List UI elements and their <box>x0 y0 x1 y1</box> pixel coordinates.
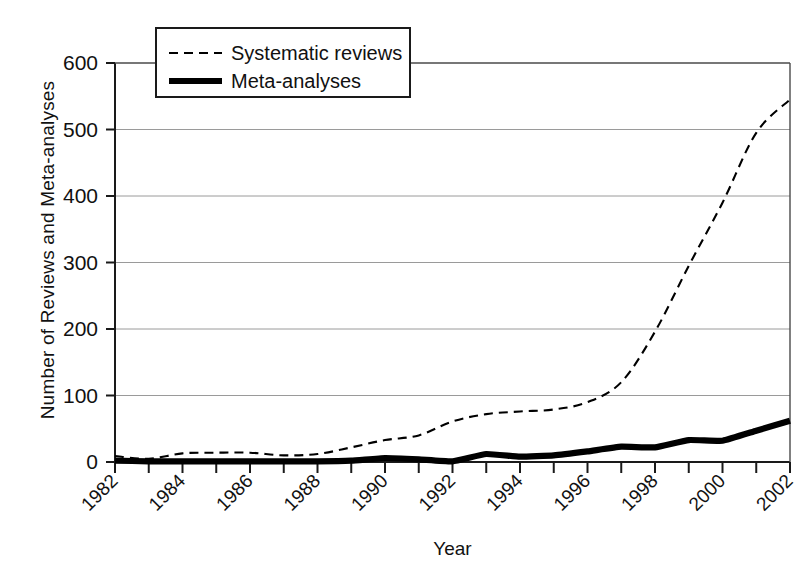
x-axis-tick-label: 1986 <box>212 470 257 515</box>
x-axis-tick-label: 1988 <box>280 470 325 515</box>
x-axis-tick-label: 1992 <box>415 470 460 515</box>
chart-figure: Number of Reviews and Meta-analyses Year… <box>0 0 811 578</box>
y-axis-tick-labels-group: 0100200300400500600 <box>63 51 98 473</box>
x-axis-tick-label: 1998 <box>617 470 662 515</box>
y-axis-tick-label: 500 <box>63 118 98 141</box>
legend-label-systematic-reviews: Systematic reviews <box>231 42 402 64</box>
y-axis-tick-label: 400 <box>63 184 98 207</box>
y-axis-tick-label: 0 <box>86 450 98 473</box>
y-axis-tick-label: 100 <box>63 384 98 407</box>
y-axis-ticks-group <box>106 63 115 462</box>
chart-plot-area: 0100200300400500600 19821984198619881990… <box>0 0 811 578</box>
x-axis-tick-label: 2002 <box>752 470 797 515</box>
x-axis-tick-label: 1996 <box>550 470 595 515</box>
y-axis-tick-label: 200 <box>63 317 98 340</box>
x-axis-tick-label: 1982 <box>77 470 122 515</box>
gridlines-group <box>115 130 790 396</box>
y-axis-tick-label: 300 <box>63 251 98 274</box>
y-axis-tick-label: 600 <box>63 51 98 74</box>
series-line-systematic-reviews <box>115 100 790 459</box>
chart-legend: Systematic reviews Meta-analyses <box>156 28 410 97</box>
x-axis-tick-label: 1984 <box>145 470 190 515</box>
x-axis-tick-labels-group: 1982198419861988199019921994199619982000… <box>77 470 797 515</box>
series-line-meta-analyses <box>115 421 790 462</box>
x-axis-tick-label: 1990 <box>347 470 392 515</box>
x-axis-tick-label: 2000 <box>685 470 730 515</box>
legend-label-meta-analyses: Meta-analyses <box>231 70 361 92</box>
x-axis-tick-label: 1994 <box>482 470 527 515</box>
